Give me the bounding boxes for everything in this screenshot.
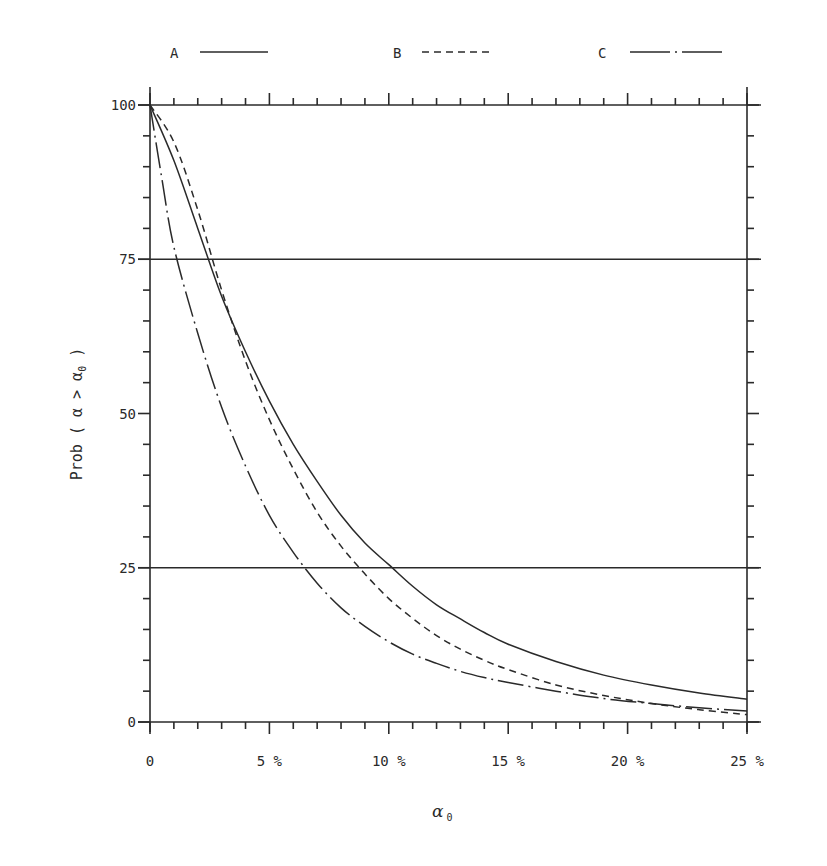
x-axis-title: α0 <box>432 801 453 823</box>
x-tick-label: 10 % <box>372 753 406 769</box>
legend-label: C <box>598 45 606 61</box>
x-tick-label: 20 % <box>611 753 645 769</box>
y-tick-labels: 0255075100 <box>111 97 136 730</box>
data-curves <box>150 105 747 715</box>
x-tick-label: 5 % <box>257 753 283 769</box>
y-axis-title: Prob ( α > α0 ) <box>68 348 88 480</box>
curve-b <box>150 105 747 715</box>
y-tick-label: 100 <box>111 97 136 113</box>
x-tick-label: 0 <box>146 753 154 769</box>
legend-label: B <box>393 45 401 61</box>
plot-axes <box>138 87 761 734</box>
legend-label: A <box>170 45 179 61</box>
x-tick-label: 15 % <box>491 753 525 769</box>
legend: ABC <box>170 45 722 61</box>
y-tick-label: 25 <box>119 560 136 576</box>
legend-item-c: C <box>598 45 722 61</box>
curve-a <box>150 105 747 699</box>
x-tick-label: 25 % <box>730 753 764 769</box>
y-tick-label: 0 <box>128 714 136 730</box>
x-tick-labels: 05 %10 %15 %20 %25 % <box>146 753 765 769</box>
y-tick-label: 75 <box>119 251 136 267</box>
legend-item-b: B <box>393 45 490 61</box>
probability-chart: ABC 05 %10 %15 %20 %25 % 0255075100 Prob… <box>0 0 827 866</box>
curve-c <box>150 105 747 711</box>
legend-item-a: A <box>170 45 268 61</box>
y-tick-label: 50 <box>119 406 136 422</box>
